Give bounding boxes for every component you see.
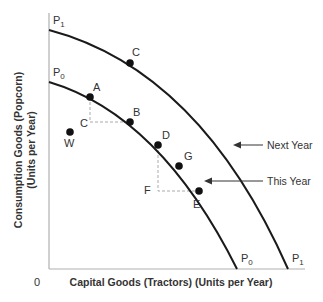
- point-c-on-p1: [126, 59, 134, 67]
- label-p0-top: P0: [53, 66, 65, 81]
- annotation-next-year: Next Year: [267, 139, 313, 151]
- label-point-e: E: [193, 198, 200, 210]
- point-g: [175, 162, 183, 170]
- next-year-arrowhead-icon: [233, 142, 241, 149]
- label-p0-bottom: P0: [241, 252, 253, 267]
- x-axis-title: Capital Goods (Tractors) (Units per Year…: [70, 276, 273, 288]
- label-point-c-inside: C: [80, 117, 88, 129]
- annotation-this-year: This Year: [267, 175, 311, 187]
- this-year-arrowhead-icon: [204, 178, 212, 185]
- label-point-a: A: [93, 81, 101, 93]
- label-point-b: B: [133, 106, 140, 118]
- curve-p1: [49, 30, 288, 269]
- ppf-diagram: P1 P0 P0 P1 C A B C W D G F E Next Year …: [0, 0, 323, 302]
- label-p1-bottom: P1: [292, 252, 304, 267]
- point-b: [126, 118, 134, 126]
- point-e: [195, 187, 203, 195]
- y-axis-title-line2: (Units per Year): [25, 111, 37, 188]
- label-p1-top: P1: [53, 14, 65, 29]
- point-w: [66, 128, 74, 136]
- label-point-d: D: [162, 129, 170, 141]
- y-axis-title-line1: Consumption Goods (Popcorn): [12, 72, 24, 228]
- point-d: [154, 141, 162, 149]
- point-a: [86, 93, 94, 101]
- curve-p0: [49, 82, 237, 269]
- label-point-g: G: [184, 150, 193, 162]
- dashed-guide-a-b: [90, 97, 130, 122]
- label-point-c-on-p1: C: [132, 46, 140, 58]
- label-point-f: F: [144, 184, 151, 196]
- origin-label: 0: [34, 276, 40, 288]
- label-point-w: W: [64, 137, 75, 149]
